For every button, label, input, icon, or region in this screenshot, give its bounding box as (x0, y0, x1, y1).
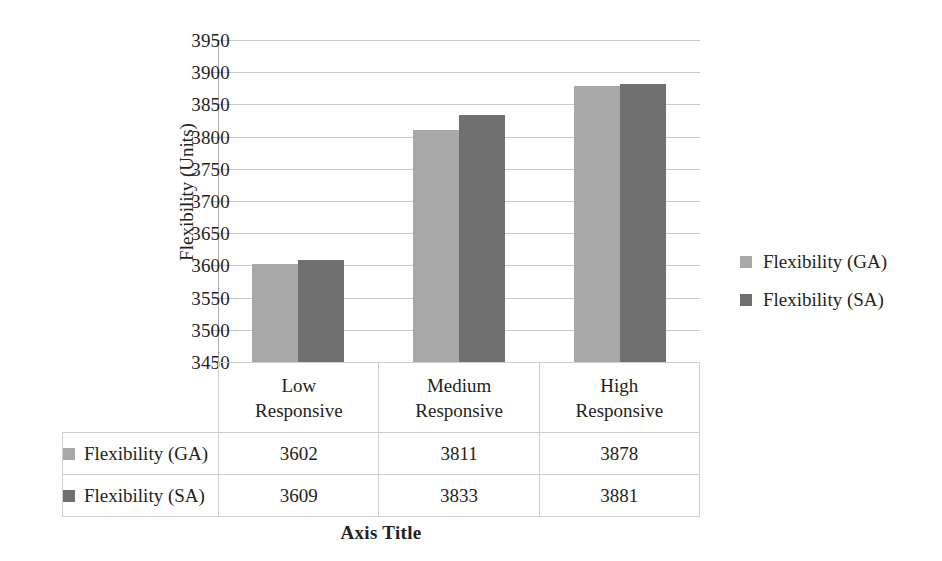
x-axis-title: Axis Title (62, 522, 700, 544)
y-axis-tick-label: 3550 (191, 289, 230, 308)
y-axis-tick-label: 3500 (191, 321, 230, 340)
table-row: Flexibility (GA)360238113878 (63, 433, 700, 475)
table-column-header: HighResponsive (539, 363, 699, 433)
y-axis-tick-label: 3750 (191, 160, 230, 179)
plot-area: Flexibility (Units) (218, 40, 700, 362)
y-axis-tick-label: 3700 (191, 192, 230, 211)
legend-item[interactable]: Flexibility (SA) (740, 281, 930, 319)
table-header-row: LowResponsiveMediumResponsiveHighRespons… (63, 363, 700, 433)
table-row-label: Flexibility (SA) (63, 475, 219, 517)
y-axis-tick-label: 3850 (191, 95, 230, 114)
y-axis-tick-label: 3600 (191, 256, 230, 275)
table-cell-value: 3878 (539, 433, 699, 475)
bar (413, 130, 459, 362)
table-series-name: Flexibility (SA) (84, 483, 205, 508)
bar (620, 84, 666, 362)
table-cell-value: 3811 (379, 433, 539, 475)
table-series-swatch-icon (63, 490, 75, 502)
bar-group (539, 40, 700, 362)
y-axis-tick-label: 3900 (191, 63, 230, 82)
table-cell-value: 3833 (379, 475, 539, 517)
legend-label: Flexibility (SA) (763, 289, 884, 311)
bar (574, 86, 620, 362)
y-axis-tick-label: 3650 (191, 224, 230, 243)
table-cell-value: 3602 (219, 433, 379, 475)
bar-group (218, 40, 379, 362)
bar-group (379, 40, 540, 362)
y-axis-tick-label: 3800 (191, 128, 230, 147)
chart-data-table: LowResponsiveMediumResponsiveHighRespons… (62, 362, 700, 517)
legend-swatch-icon (740, 256, 752, 268)
legend-label: Flexibility (GA) (763, 251, 887, 273)
legend-item[interactable]: Flexibility (GA) (740, 243, 930, 281)
table-corner-cell (63, 363, 219, 433)
legend-swatch-icon (740, 294, 752, 306)
table-cell-value: 3609 (219, 475, 379, 517)
bar-chart: Flexibility (Units) 39503900385038003750… (0, 0, 942, 561)
bar-groups (218, 40, 700, 362)
table-row-label: Flexibility (GA) (63, 433, 219, 475)
chart-legend: Flexibility (GA)Flexibility (SA) (740, 243, 930, 319)
table-column-header: LowResponsive (219, 363, 379, 433)
bar (459, 115, 505, 362)
table-series-name: Flexibility (GA) (84, 441, 208, 466)
bar (298, 260, 344, 362)
table-column-header: MediumResponsive (379, 363, 539, 433)
table-cell-value: 3881 (539, 475, 699, 517)
table-series-swatch-icon (63, 448, 75, 460)
bar (252, 264, 298, 362)
y-axis-tick-label: 3950 (191, 31, 230, 50)
table-row: Flexibility (SA)360938333881 (63, 475, 700, 517)
